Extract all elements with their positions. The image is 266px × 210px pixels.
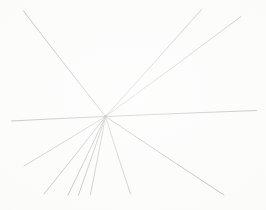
line-lower-right-shallow — [106, 117, 225, 196]
drawing-canvas — [0, 0, 266, 210]
line-layer — [0, 0, 266, 210]
vanishing-point-knot — [104, 115, 107, 118]
line-upper-right-shallow — [106, 17, 242, 117]
radiating-lines-group — [12, 10, 257, 196]
line-lower-center — [91, 117, 106, 195]
line-lower-right-steep — [106, 117, 131, 195]
line-upper-right-steep — [106, 10, 202, 117]
line-upper-left — [24, 11, 106, 117]
line-lower-left-shallow — [24, 117, 106, 167]
line-horizontal-right — [106, 111, 257, 117]
line-horizontal-left — [12, 117, 106, 122]
line-lower-near-vertical — [79, 117, 106, 196]
line-lower-left-a — [44, 117, 106, 195]
